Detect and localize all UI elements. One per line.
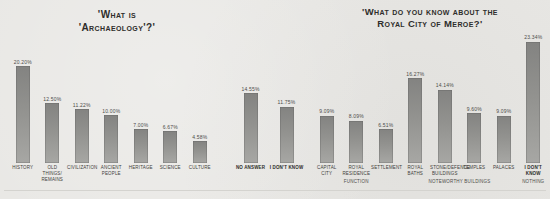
chart-title-line-1: 'What is bbox=[8, 8, 226, 21]
axis-category-label: SETTLEMENT bbox=[371, 165, 401, 177]
bar bbox=[379, 129, 393, 163]
plot-area: 20.20%12.50%11.22%10.00%7.00%6.67%4.58%1… bbox=[8, 28, 308, 163]
plot-area: 9.09%8.09%6.51%16.27%14.14%9.60%9.09%23.… bbox=[312, 28, 548, 163]
axis-category-label: ROYAL BATHS bbox=[401, 165, 431, 177]
bar-column: 12.50% bbox=[38, 97, 68, 164]
bar-value-label: 6.51% bbox=[378, 123, 393, 128]
bar bbox=[163, 131, 177, 163]
axis-category-label: NO ANSWER bbox=[233, 165, 269, 183]
bar-column: 9.09% bbox=[312, 109, 342, 163]
bar bbox=[244, 93, 258, 163]
bar bbox=[193, 141, 207, 163]
bar-value-label: 16.27% bbox=[406, 72, 424, 77]
bar-value-label: 23.34% bbox=[524, 35, 542, 40]
bar-column: 23.34% bbox=[519, 35, 549, 163]
bar bbox=[45, 103, 59, 163]
axis-group-label: NOTEWORTHY BUILDINGS bbox=[401, 180, 519, 185]
bar-column: 11.75% bbox=[269, 100, 305, 163]
bar bbox=[280, 107, 294, 163]
bar-value-label: 10.00% bbox=[102, 109, 120, 114]
bar-value-label: 9.09% bbox=[319, 109, 334, 114]
axis-category-label: ROYAL RESIDENCE bbox=[342, 165, 372, 177]
chart-title-line-1: 'What do you know about the bbox=[312, 6, 548, 18]
axis-category-label: ANCIENT PEOPLE bbox=[97, 165, 127, 183]
bar-value-label: 14.14% bbox=[436, 83, 454, 88]
axis-category-label: CAPITAL CITY bbox=[312, 165, 342, 177]
bar-column: 6.67% bbox=[156, 125, 186, 164]
bar-value-label: 11.22% bbox=[73, 103, 91, 108]
bar-chart-meroe: 'What do you know about the Royal City o… bbox=[312, 0, 548, 199]
bar-column: 7.00% bbox=[126, 123, 156, 163]
groups-row: FUNCTIONNOTEWORTHY BUILDINGSNOTHING bbox=[312, 180, 548, 185]
bar bbox=[438, 90, 452, 164]
bar-column: 14.14% bbox=[430, 83, 460, 163]
bar bbox=[16, 66, 30, 163]
bar bbox=[526, 42, 540, 163]
axis-category-label: CULTURE bbox=[185, 165, 215, 183]
axis-category-label: STONE/DEFENCE BUILDINGS bbox=[430, 165, 460, 177]
axis-row: CAPITAL CITYROYAL RESIDENCESETTLEMENTROY… bbox=[312, 165, 548, 177]
scanned-survey-figure: 'What is 'Archaeology'?' 20.20%12.50%11.… bbox=[0, 0, 550, 199]
bar bbox=[467, 113, 481, 163]
bar-column: 8.09% bbox=[342, 114, 372, 163]
bar bbox=[349, 121, 363, 163]
bar-column: 20.20% bbox=[8, 60, 38, 164]
bar-value-label: 9.09% bbox=[496, 109, 511, 114]
bar-column: 6.51% bbox=[371, 123, 401, 163]
bar-column: 4.58% bbox=[185, 135, 215, 164]
bar-value-label: 4.58% bbox=[192, 135, 207, 140]
bar-column: 11.22% bbox=[67, 103, 97, 163]
bar-column: 14.55% bbox=[233, 87, 269, 163]
axis-category-label: OLD THINGS/ REMAINS bbox=[38, 165, 68, 183]
axis-category-label: HERITAGE bbox=[126, 165, 156, 183]
bar bbox=[320, 116, 334, 163]
bar-column: 9.60% bbox=[460, 107, 490, 163]
bar-column: 16.27% bbox=[401, 72, 431, 163]
bar bbox=[134, 129, 148, 163]
chart-title-meroe: 'What do you know about the Royal City o… bbox=[312, 6, 548, 31]
bar bbox=[104, 115, 118, 163]
axis-group-label: NOTHING bbox=[519, 180, 549, 185]
page-bottom-rule bbox=[4, 190, 546, 191]
axis-category-label: CIVILIZATION bbox=[67, 165, 97, 183]
bar-value-label: 7.00% bbox=[133, 123, 148, 128]
bar-value-label: 8.09% bbox=[349, 114, 364, 119]
axis-row: HISTORYOLD THINGS/ REMAINSCIVILIZATIONAN… bbox=[8, 165, 308, 183]
bar-value-label: 9.60% bbox=[467, 107, 482, 112]
bar-value-label: 14.55% bbox=[241, 87, 259, 92]
bar-value-label: 11.75% bbox=[278, 100, 296, 105]
bar bbox=[75, 109, 89, 163]
bar bbox=[408, 78, 422, 163]
axis-group-label: FUNCTION bbox=[312, 180, 401, 185]
axis-category-label: I DON'T KNOW bbox=[519, 165, 549, 177]
bar-value-label: 6.67% bbox=[163, 125, 178, 130]
axis-category-label: PALACES bbox=[489, 165, 519, 177]
bar-value-label: 20.20% bbox=[14, 60, 32, 65]
bar-column: 10.00% bbox=[97, 109, 127, 164]
axis-category-label: I DON'T KNOW bbox=[269, 165, 305, 183]
axis-category-label: SCIENCE bbox=[156, 165, 186, 183]
axis-category-label: TEMPLES bbox=[460, 165, 490, 177]
bar-value-label: 12.50% bbox=[43, 97, 61, 102]
bar-column: 9.09% bbox=[489, 109, 519, 163]
bar-chart-archaeology: 'What is 'Archaeology'?' 20.20%12.50%11.… bbox=[8, 0, 308, 199]
axis-category-label: HISTORY bbox=[8, 165, 38, 183]
bar bbox=[497, 116, 511, 163]
